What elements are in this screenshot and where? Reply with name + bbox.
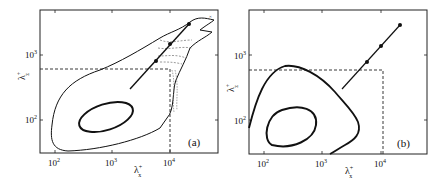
panel-b-marker bbox=[365, 60, 369, 64]
panel-a-marker bbox=[187, 22, 191, 26]
panel-b-inner-contour bbox=[267, 107, 317, 146]
panel-a-x-tick-labels: 102 103 104 bbox=[48, 157, 175, 168]
panel-a-ragged-edge bbox=[172, 70, 177, 112]
panel-a-ticks bbox=[40, 10, 218, 153]
panel-a-x-axis-label: λ+x bbox=[134, 164, 143, 178]
panel-b-y-axis-label: λ+z bbox=[225, 83, 239, 92]
panel-a-marker bbox=[154, 59, 158, 63]
svg-text:104: 104 bbox=[374, 158, 386, 169]
panel-b-x-tick-labels: 102 103 104 bbox=[257, 158, 386, 169]
panel-a-y-axis-label: λ+z bbox=[16, 71, 30, 80]
svg-text:104: 104 bbox=[163, 157, 175, 168]
svg-text:102: 102 bbox=[48, 157, 60, 168]
panel-a-frame bbox=[40, 10, 218, 153]
panel-a-marker bbox=[168, 42, 172, 46]
panel-a-y-tick-labels: 103 102 bbox=[25, 49, 37, 125]
svg-text:102: 102 bbox=[234, 115, 246, 126]
panel-b-frame bbox=[249, 10, 427, 154]
panel-b: (b) 102 103 104 103 102 λ+x λ+z bbox=[225, 10, 427, 179]
svg-text:103: 103 bbox=[25, 49, 37, 60]
svg-text:103: 103 bbox=[315, 158, 327, 169]
panel-a: × (a) 102 103 104 103 102 λ+x λ+z bbox=[16, 10, 218, 178]
svg-text:103: 103 bbox=[234, 50, 246, 61]
panel-b-marker bbox=[398, 23, 402, 27]
svg-text:103: 103 bbox=[105, 157, 117, 168]
panel-a-label: (a) bbox=[188, 136, 201, 149]
panel-a-corner-mark: × bbox=[209, 14, 212, 19]
figure: × (a) 102 103 104 103 102 λ+x λ+z bbox=[0, 0, 441, 188]
svg-text:102: 102 bbox=[25, 114, 37, 125]
panel-b-marker bbox=[379, 44, 383, 48]
svg-text:102: 102 bbox=[257, 158, 269, 169]
panel-a-outer-contour bbox=[51, 18, 214, 151]
panel-a-dashed-box bbox=[40, 69, 170, 153]
panel-b-x-axis-label: λ+x bbox=[345, 165, 354, 179]
panel-b-ridge-line bbox=[342, 25, 400, 89]
panel-b-label: (b) bbox=[397, 137, 410, 150]
panel-b-ticks bbox=[249, 10, 427, 154]
panel-a-inner-contour bbox=[75, 96, 136, 138]
